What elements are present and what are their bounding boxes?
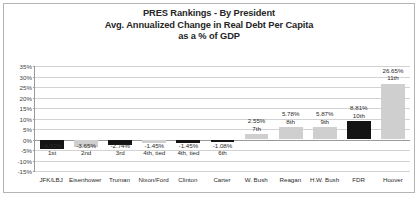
x-axis-category-label: W. Bush <box>239 176 273 183</box>
chart-title: PRES Rankings - By President Avg. Annual… <box>4 8 414 43</box>
x-axis-category-label: JFK/LBJ <box>34 176 68 183</box>
y-axis-tick-mark <box>33 171 35 172</box>
x-axis-category-label: Carter <box>205 176 239 183</box>
chart-title-line-3: as a % of GDP <box>4 31 414 43</box>
plot-area: 35%30%25%20%15%10%5%0%-5%-10%-15% -4.32%… <box>34 66 410 171</box>
y-axis-tick-label: 15% <box>20 105 32 112</box>
bar[interactable] <box>245 134 269 139</box>
y-axis-tick-label: 30% <box>20 73 32 80</box>
x-axis-category-label: FDR <box>342 176 376 183</box>
y-axis-tick-label: -10% <box>18 157 32 164</box>
bar[interactable] <box>279 127 303 139</box>
chart-title-line-1: PRES Rankings - By President <box>4 8 414 20</box>
x-axis-categories: JFK/LBJEisenhowerTrumanNixon/FordClinton… <box>34 176 410 190</box>
gridline <box>35 171 410 172</box>
x-axis-category-label: Truman <box>102 176 136 183</box>
bar-value-text: 26.65% <box>368 67 417 75</box>
x-axis-category-label: Hoover <box>376 176 410 183</box>
bar-slot: 8.81%10th <box>342 66 376 171</box>
y-axis-tick-label: 10% <box>20 115 32 122</box>
bar-slot: 26.65%11th <box>376 66 410 171</box>
chart-container: PRES Rankings - By President Avg. Annual… <box>3 3 415 193</box>
y-axis-tick-label: 35% <box>20 63 32 70</box>
x-axis-category-label: H.W. Bush <box>307 176 341 183</box>
x-axis-category-label: Clinton <box>171 176 205 183</box>
chart-title-line-2: Avg. Annualized Change in Real Debt Per … <box>4 20 414 32</box>
bar[interactable] <box>347 121 371 140</box>
y-axis-tick-label: 5% <box>23 126 32 133</box>
y-axis-tick-label: 25% <box>20 84 32 91</box>
bar-value-label: 26.65%11th <box>368 67 417 82</box>
y-axis-tick-label: -15% <box>18 168 32 175</box>
bar-rank-text: 11th <box>368 74 417 82</box>
bar[interactable] <box>381 84 405 140</box>
y-axis-tick-label: 20% <box>20 94 32 101</box>
x-axis-category-label: Eisenhower <box>68 176 102 183</box>
bar[interactable] <box>313 127 337 139</box>
x-axis-category-label: Nixon/Ford <box>137 176 171 183</box>
bar-series: -4.32%1st-3.65%2nd-2.74%3rd-1.45%4th, ti… <box>35 66 410 171</box>
x-axis-category-label: Reagan <box>273 176 307 183</box>
